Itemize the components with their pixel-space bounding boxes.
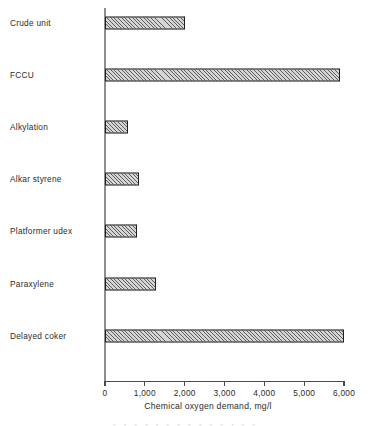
- plot-area: Crude unitFCCUAlkylationAlkar styrenePla…: [0, 0, 370, 390]
- bar-row: Alkar styrene: [0, 168, 370, 190]
- x-axis-tick: [343, 381, 344, 386]
- x-axis-tick-label: 1,000: [134, 388, 156, 398]
- x-axis-tick: [264, 381, 265, 386]
- bar: [105, 225, 137, 238]
- bar-chart-figure: Crude unitFCCUAlkylationAlkar styrenePla…: [0, 0, 370, 426]
- x-axis-tick-label: 5,000: [293, 388, 315, 398]
- x-axis-title: Chemical oxygen demand, mg/l: [0, 401, 370, 411]
- bar: [105, 69, 340, 82]
- category-label: Delayed coker: [10, 331, 98, 341]
- bar: [105, 121, 128, 134]
- x-axis-tick-label: 3,000: [213, 388, 235, 398]
- x-axis-tick-label: 6,000: [333, 388, 355, 398]
- bar-row: Platformer udex: [0, 220, 370, 242]
- x-axis-tick-label: 2,000: [174, 388, 196, 398]
- x-axis-tick-label: 0: [103, 388, 108, 398]
- bar-row: Alkylation: [0, 116, 370, 138]
- x-axis-tick-label: 4,000: [253, 388, 275, 398]
- x-axis-tick: [144, 381, 145, 386]
- category-label: Alkylation: [10, 122, 98, 132]
- bar-row: Crude unit: [0, 12, 370, 34]
- x-axis-tick: [104, 381, 105, 386]
- bar-row: Paraxylene: [0, 273, 370, 295]
- bar-row: FCCU: [0, 64, 370, 86]
- category-label: FCCU: [10, 70, 98, 80]
- category-label: Alkar styrene: [10, 174, 98, 184]
- x-axis-tick: [184, 381, 185, 386]
- clipped-caption: · · · · · · · · · · · · · ·: [0, 418, 370, 426]
- bar: [105, 277, 156, 290]
- bar: [105, 329, 344, 342]
- category-label: Paraxylene: [10, 279, 98, 289]
- bar: [105, 17, 185, 30]
- x-axis-tick: [224, 381, 225, 386]
- category-label: Crude unit: [10, 18, 98, 28]
- bar-row: Delayed coker: [0, 325, 370, 347]
- bar: [105, 173, 139, 186]
- category-label: Platformer udex: [10, 226, 98, 236]
- x-axis-tick: [304, 381, 305, 386]
